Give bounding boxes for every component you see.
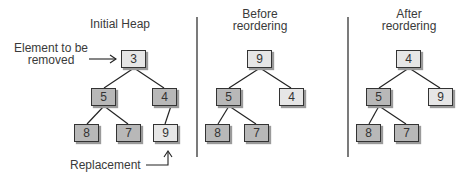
heap-node: 4 (396, 50, 421, 68)
heap-node: 5 (366, 88, 391, 106)
heap-node: 9 (247, 50, 272, 68)
replacement-annotation: Replacement (70, 159, 146, 171)
panel3-title-line2: reordering (369, 20, 449, 32)
heap-node: 4 (152, 88, 177, 106)
heap-node: 4 (279, 88, 304, 106)
heap-node: 8 (356, 124, 381, 142)
heap-node: 5 (216, 88, 241, 106)
replacement-arrow-icon (146, 151, 172, 165)
panel2-title: Before reordering (220, 8, 300, 32)
heap-node-replacement: 9 (153, 124, 178, 142)
heap-node: 5 (91, 88, 116, 106)
heap-node: 7 (244, 124, 269, 142)
heap-node: 8 (205, 124, 230, 142)
panel3-title: After reordering (369, 8, 449, 32)
heap-node: 7 (394, 124, 419, 142)
removed-annotation-line2: removed (8, 54, 94, 66)
removed-annotation: Element to be removed (8, 42, 94, 66)
panel2-title-line2: reordering (220, 20, 300, 32)
heap-node: 9 (428, 88, 453, 106)
heap-node: 8 (74, 124, 99, 142)
panel1-title: Initial Heap (82, 18, 158, 30)
heap-node: 7 (116, 124, 141, 142)
heap-node: 3 (121, 50, 146, 68)
